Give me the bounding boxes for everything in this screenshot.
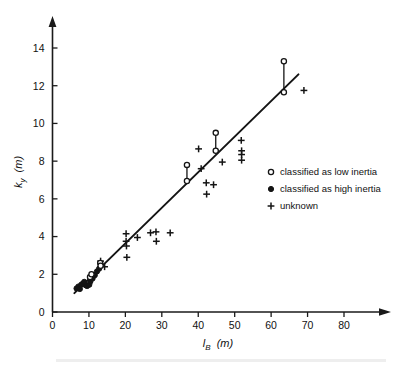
legend-label: classified as high inertia [280, 183, 382, 194]
data-point-plus [210, 181, 217, 188]
data-point-plus [153, 238, 160, 245]
legend-label: classified as low inertia [280, 166, 378, 177]
data-point-open-circle [281, 90, 286, 95]
data-point-plus [123, 230, 130, 237]
paired-marker-connectors [91, 61, 284, 278]
data-point-open-circle [89, 272, 94, 277]
y-axis-arrow-icon [49, 16, 57, 27]
scatter-plot: 01020304050607080 02468101214 lB (m) ky … [0, 0, 405, 365]
y-tick-label: 6 [39, 193, 45, 205]
x-tick-label: 70 [302, 319, 314, 331]
x-axis-title: lB (m) [203, 337, 234, 352]
data-point-open-circle [281, 59, 286, 64]
x-tick-label: 10 [83, 319, 95, 331]
data-point-plus [238, 157, 245, 164]
data-point-plus [123, 254, 130, 261]
data-point-plus [219, 159, 226, 166]
y-axis-title: ky (m) [12, 156, 27, 188]
data-point-plus [167, 229, 174, 236]
legend-marker-filled-circle [268, 186, 273, 191]
data-point-open-circle [213, 148, 218, 153]
data-point-open-circle [98, 263, 103, 268]
data-point-plus [195, 145, 202, 152]
legend-item: classified as high inertia [268, 183, 381, 194]
legend-marker-plus [268, 203, 275, 210]
y-tick-label: 4 [39, 230, 45, 242]
y-tick-label: 2 [39, 268, 45, 280]
scan-artifact [56, 359, 386, 362]
y-tick-label: 8 [39, 155, 45, 167]
data-point-open-circle [213, 130, 218, 135]
legend-item: classified as low inertia [268, 166, 377, 177]
x-tick-label: 20 [120, 319, 132, 331]
data-point-plus [301, 87, 308, 94]
y-tick-label: 10 [33, 117, 45, 129]
data-point-plus [203, 191, 210, 198]
legend-marker-open-circle [268, 169, 273, 174]
legend: classified as low inertiaclassified as h… [268, 166, 382, 211]
series-unknown-markers [97, 87, 307, 270]
x-axis-arrow-icon [379, 308, 391, 316]
figure-container: 01020304050607080 02468101214 lB (m) ky … [0, 0, 405, 365]
data-point-open-circle [184, 162, 189, 167]
data-point-plus [147, 229, 154, 236]
data-point-open-circle [184, 178, 189, 183]
legend-label: unknown [280, 200, 318, 211]
data-point-plus [203, 179, 210, 186]
x-tick-label: 60 [265, 319, 277, 331]
x-tick-label: 50 [229, 319, 241, 331]
y-tick-label: 14 [33, 42, 45, 54]
x-axis-ticks: 01020304050607080 [50, 312, 350, 331]
legend-item: unknown [268, 200, 318, 211]
x-tick-label: 80 [338, 319, 350, 331]
y-tick-label: 12 [33, 80, 45, 92]
data-point-plus [238, 137, 245, 144]
x-tick-label: 40 [192, 319, 204, 331]
y-tick-label: 0 [39, 306, 45, 318]
y-axis-ticks: 02468101214 [33, 42, 58, 318]
x-tick-label: 0 [50, 319, 56, 331]
x-tick-label: 30 [156, 319, 168, 331]
data-point-plus [153, 228, 160, 235]
